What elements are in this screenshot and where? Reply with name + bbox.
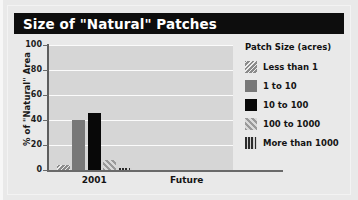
- bar-2001-solid-gray: [72, 120, 85, 170]
- solid-gray-swatch: [245, 80, 257, 92]
- x-axis-line: [47, 170, 283, 172]
- bar-2001-solid-black: [88, 113, 101, 171]
- bar-2001-diagonal-stripe: [103, 160, 116, 170]
- y-tick-label-80: 80: [16, 65, 42, 74]
- legend-item-1: 1 to 10: [245, 76, 345, 95]
- legend-item-2: 10 to 100: [245, 95, 345, 114]
- y-tick-label-0: 0: [16, 165, 42, 174]
- y-tick-label-60: 60: [16, 90, 42, 99]
- gridline-80: [48, 70, 233, 71]
- plot-area: [48, 45, 233, 170]
- legend-items: Less than 11 to 1010 to 100100 to 1000Mo…: [245, 57, 345, 152]
- diagonal-stripe-swatch: [245, 118, 257, 130]
- solid-black-swatch: [245, 99, 257, 111]
- y-tick-label-40: 40: [16, 115, 42, 124]
- chart-region: % of "Natural" Area 020406080100 2001Fut…: [14, 36, 344, 191]
- y-axis-line: [47, 44, 49, 172]
- chart-title-bar: Size of "Natural" Patches: [14, 13, 344, 34]
- y-axis-tick-labels: 020406080100: [14, 36, 42, 179]
- y-tick-mark-80: [43, 70, 48, 71]
- legend-title: Patch Size (acres): [245, 42, 345, 52]
- y-tick-mark-60: [43, 95, 48, 96]
- legend-item-3: 100 to 1000: [245, 114, 345, 133]
- figure-container: Size of "Natural" Patches % of "Natural"…: [0, 0, 358, 200]
- left-edge-strip: [0, 0, 3, 200]
- vertical-stripe-swatch: [245, 137, 257, 149]
- legend-label-4: More than 1000: [263, 138, 339, 148]
- x-tick-label-2001: 2001: [59, 175, 129, 185]
- y-tick-mark-0: [43, 170, 48, 171]
- legend-label-2: 10 to 100: [263, 100, 308, 110]
- legend-label-3: 100 to 1000: [263, 119, 320, 129]
- chart-title: Size of "Natural" Patches: [23, 16, 217, 32]
- x-tick-label-Future: Future: [152, 175, 222, 185]
- legend-label-0: Less than 1: [263, 62, 318, 72]
- hatch-back-gray-swatch: [245, 61, 257, 73]
- legend-item-0: Less than 1: [245, 57, 345, 76]
- legend-label-1: 1 to 10: [263, 81, 297, 91]
- y-tick-mark-20: [43, 145, 48, 146]
- y-tick-label-20: 20: [16, 140, 42, 149]
- legend: Patch Size (acres) Less than 11 to 1010 …: [245, 42, 345, 152]
- y-tick-label-100: 100: [16, 40, 42, 49]
- y-tick-mark-40: [43, 120, 48, 121]
- y-tick-mark-100: [43, 45, 48, 46]
- gridline-60: [48, 95, 233, 96]
- gridline-100: [48, 45, 233, 46]
- legend-item-4: More than 1000: [245, 133, 345, 152]
